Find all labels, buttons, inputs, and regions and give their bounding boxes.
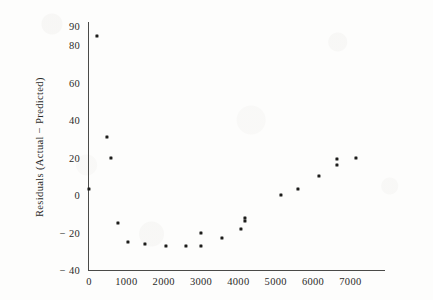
x-tick-label: 1000 bbox=[115, 276, 137, 287]
data-point bbox=[143, 242, 146, 245]
plot-area: Residuals (Actual − Predicted) − 40− 200… bbox=[0, 0, 433, 300]
y-axis-line bbox=[88, 22, 89, 271]
data-point bbox=[220, 237, 223, 240]
x-tick-label: 3000 bbox=[190, 276, 212, 287]
data-point bbox=[127, 240, 130, 243]
y-tick-label: 20 bbox=[40, 152, 80, 163]
figure-residual-plot: Residuals (Actual − Predicted) − 40− 200… bbox=[0, 0, 433, 300]
y-tick-label: 90 bbox=[40, 21, 80, 32]
data-point bbox=[185, 244, 188, 247]
data-point bbox=[87, 188, 90, 191]
data-point bbox=[117, 222, 120, 225]
x-tick-label: 4000 bbox=[227, 276, 249, 287]
data-point bbox=[105, 135, 108, 138]
data-point bbox=[109, 156, 112, 159]
x-tick-label: 2000 bbox=[153, 276, 175, 287]
data-point bbox=[336, 163, 339, 166]
data-point bbox=[280, 193, 283, 196]
data-point bbox=[244, 216, 247, 219]
data-point bbox=[96, 34, 99, 37]
x-tick-label: 5000 bbox=[265, 276, 287, 287]
y-tick-label: 60 bbox=[40, 77, 80, 88]
data-point bbox=[354, 156, 357, 159]
y-tick-label: 40 bbox=[40, 115, 80, 126]
x-axis-line bbox=[88, 270, 385, 271]
x-tick-label: 0 bbox=[86, 276, 92, 287]
x-tick-label: 7000 bbox=[339, 276, 361, 287]
data-point bbox=[164, 244, 167, 247]
data-point bbox=[199, 244, 202, 247]
data-point bbox=[336, 158, 339, 161]
data-point bbox=[199, 231, 202, 234]
y-tick-label: − 40 bbox=[40, 265, 80, 276]
data-point bbox=[244, 220, 247, 223]
data-point bbox=[239, 227, 242, 230]
data-point bbox=[317, 175, 320, 178]
data-point bbox=[297, 188, 300, 191]
y-tick-label: − 20 bbox=[40, 227, 80, 238]
x-tick-label: 6000 bbox=[302, 276, 324, 287]
y-tick-label: 0 bbox=[40, 190, 80, 201]
y-tick-label: 80 bbox=[40, 40, 80, 51]
